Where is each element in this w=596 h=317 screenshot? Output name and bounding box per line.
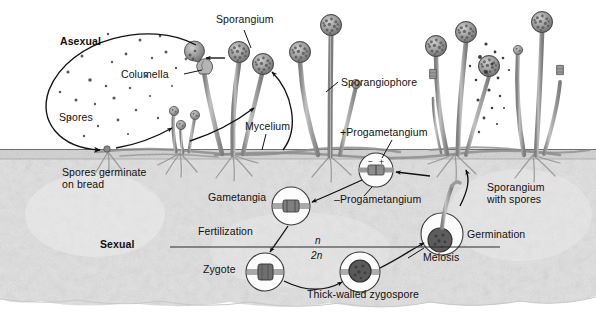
fertilization-label: Fertilization	[198, 226, 253, 238]
gametangia-label: Gametangia	[208, 192, 266, 204]
columella-label: Columella	[121, 69, 169, 81]
gametangia-inset	[272, 187, 310, 225]
diagram-canvas: − +	[0, 0, 596, 317]
svg-text:+: +	[379, 157, 384, 167]
meiosis-label: Meiosis	[423, 252, 459, 264]
life-cycle-illustration: − +	[0, 0, 596, 317]
germination-label: Germination	[467, 229, 525, 241]
minus-progametangium-label: –Progametangium	[334, 194, 421, 206]
young-mold-cluster	[169, 106, 199, 153]
zygote-label: Zygote	[203, 264, 236, 276]
sporangiophore-label: Sporangiophore	[341, 77, 417, 89]
diploid-2n-label: 2n	[311, 250, 322, 262]
spores-germinate-label: Spores germinate on bread	[62, 167, 146, 190]
germinating-spore	[104, 146, 110, 152]
thick-walled-zygospore-label: Thick-walled zygospore	[307, 289, 419, 301]
sexual-heading: Sexual	[100, 239, 134, 251]
haploid-n-label: n	[315, 235, 321, 247]
zygospore-inset	[340, 252, 380, 292]
label-leader-lines	[184, 30, 392, 158]
mature-mold-cluster-right-b	[513, 12, 563, 156]
spores-label: Spores	[59, 112, 93, 124]
progametangium-inset: − +	[359, 153, 393, 187]
sporangium-label: Sporangium	[216, 14, 274, 26]
plus-progametangium-label: +Progametangium	[340, 127, 428, 139]
svg-text:−: −	[368, 156, 373, 166]
mature-mold-cluster-right-a	[426, 22, 500, 156]
zygote-inset	[246, 253, 284, 291]
mycelium-label: Mycelium	[245, 121, 290, 133]
sporangium-with-spores-label: Sporangium with spores	[487, 182, 545, 205]
asexual-heading: Asexual	[60, 36, 101, 48]
